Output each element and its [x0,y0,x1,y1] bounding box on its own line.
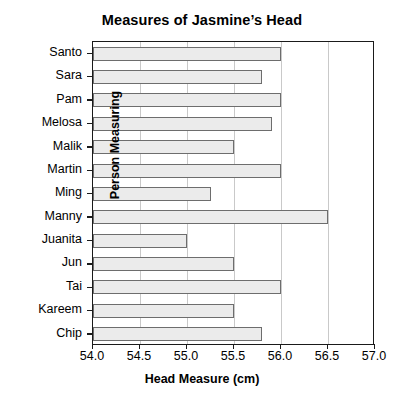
y-axis-tick-labels: SantoSaraPamMelosaMalikMartinMingMannyJu… [0,41,87,345]
bar-row [93,229,375,252]
bar-row [93,136,375,159]
bar [93,327,262,341]
y-tick-label: Juanita [0,228,82,251]
x-tick-mark [233,344,234,349]
bar-row [93,65,375,88]
y-tick-mark [87,53,92,54]
y-tick-label: Santo [0,41,82,64]
y-tick-mark [87,263,92,264]
bar-row [93,206,375,229]
bar-row [93,323,375,346]
bar-row [93,159,375,182]
y-tick-mark [87,240,92,241]
bar-row [93,42,375,65]
y-tick-mark [87,99,92,100]
x-tick-mark [139,344,140,349]
bar-row [93,299,375,322]
y-tick-mark [87,76,92,77]
y-tick-label: Kareem [0,298,82,321]
x-tick-mark [374,344,375,349]
bar-chart: Measures of Jasmine’s Head Person Measur… [0,0,404,408]
y-tick-label: Jun [0,251,82,274]
y-tick-mark [87,310,92,311]
x-tick-mark [186,344,187,349]
bar-row [93,89,375,112]
y-tick-label: Ming [0,181,82,204]
bar [93,257,234,271]
bar [93,304,234,318]
y-tick-mark [87,216,92,217]
y-tick-mark [87,193,92,194]
y-tick-label: Martin [0,158,82,181]
bars [93,42,373,344]
x-tick-mark [280,344,281,349]
y-tick-label: Manny [0,205,82,228]
y-tick-label: Pam [0,88,82,111]
y-tick-label: Melosa [0,111,82,134]
y-tick-label: Tai [0,275,82,298]
y-tick-mark [87,170,92,171]
x-tick-mark [327,344,328,349]
x-tick-mark [92,344,93,349]
y-tick-mark [87,333,92,334]
x-tick-label: 57.0 [344,349,404,363]
bar-row [93,112,375,135]
y-tick-label: Chip [0,322,82,345]
y-tick-label: Malik [0,135,82,158]
bar-row [93,252,375,275]
y-tick-mark [87,146,92,147]
bar-row [93,182,375,205]
x-axis-tick-labels: 54.054.555.055.556.056.557.0 [0,349,404,369]
bar-row [93,276,375,299]
bar [93,210,328,224]
y-tick-label: Sara [0,64,82,87]
plot-area: Person Measuring [92,41,374,345]
bar [93,234,187,248]
bar [93,280,281,294]
y-axis-title: Person Measuring [108,55,122,235]
x-axis-title: Head Measure (cm) [0,372,404,386]
y-tick-mark [87,123,92,124]
y-tick-mark [87,287,92,288]
chart-title: Measures of Jasmine’s Head [0,12,404,28]
